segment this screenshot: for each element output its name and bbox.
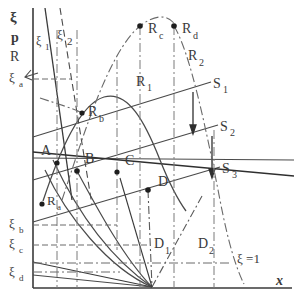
curve-label-R-2: R 2 (188, 48, 204, 68)
s-line-family (33, 82, 294, 222)
y-tick-xi-c-base: ξ (9, 236, 15, 251)
point-label-R-a-sub: a (57, 202, 61, 212)
curve-label-xi-2: ξ 2 (57, 27, 73, 47)
point-label-B: B (85, 151, 94, 166)
curve-left-fall (53, 160, 152, 287)
curve-label-S-1: S 1 (213, 76, 228, 95)
figure-container: ξ p R x ξ a ξ b ξ c ξ d ξ 1 ξ 2 (0, 0, 294, 303)
curve-label-xi-1: ξ 1 (36, 34, 50, 52)
curve-label-S-2: S 2 (220, 119, 235, 138)
marker-C (114, 169, 119, 174)
x-axis-label: x (275, 273, 283, 288)
s-arrow-group (190, 92, 215, 178)
y-tick-xi-a-base: ξ (9, 70, 15, 85)
curve-label-D-1: D 1 (154, 236, 170, 256)
marker-Rc (137, 23, 143, 29)
y-tick-xi-b: ξ b (9, 216, 24, 235)
curve-label-S-2-sub: 2 (230, 127, 235, 138)
curve-label-D-1-sub: 1 (165, 245, 170, 256)
d1-ray (148, 190, 152, 287)
y-tick-xi-d: ξ d (9, 264, 24, 283)
point-label-R-b-sub: b (99, 113, 104, 124)
r2-dashdot-curves (40, 17, 244, 284)
marker-D (145, 187, 151, 193)
y-tick-xi-c: ξ c (9, 236, 23, 255)
curve-mid-fall (77, 171, 152, 287)
point-label-D: D (158, 174, 168, 189)
curve-label-S-2-base: S (220, 119, 228, 134)
marker-Rd (171, 23, 177, 29)
marker-Rb (79, 110, 84, 115)
point-label-R-d-sub: d (193, 30, 198, 41)
curve-label-R-1-sub: 1 (147, 82, 152, 93)
curve-label-S-3: S 3 (222, 161, 237, 180)
point-label-R-b: R b (88, 104, 104, 124)
point-label-A: A (41, 143, 52, 158)
curve-label-S-3-sub: 3 (232, 169, 237, 180)
y-axis-label-R: R (10, 49, 20, 64)
point-label-R-d-base: R (182, 21, 192, 36)
y-axis-label-p: p (11, 30, 19, 45)
y-tick-label-group: ξ a ξ b ξ c ξ d (9, 70, 24, 283)
curve-label-S-1-base: S (213, 76, 221, 91)
curve-label-R-1: R 1 (136, 74, 152, 93)
curve-label-D-2: D 2 (198, 236, 214, 256)
curve-outer-fall (45, 170, 152, 287)
y-tick-xi-d-base: ξ (9, 264, 15, 279)
curve-label-xi-2-sub: 2 (67, 35, 73, 47)
point-label-R-b-base: R (88, 104, 98, 119)
curve-label-D-2-sub: 2 (209, 245, 214, 256)
marker-B (74, 168, 80, 174)
y-tick-xi-a: ξ a (9, 70, 23, 89)
marker-A (54, 160, 59, 165)
point-label-R-a-base: R (47, 193, 56, 208)
y-axis-label-group: ξ p R (10, 9, 20, 64)
abcd-upper-line (33, 152, 294, 176)
curve-label-xi-1-sub: 1 (45, 42, 50, 52)
curve-label-D-1-base: D (154, 236, 164, 251)
curve-label-S-3-base: S (222, 161, 230, 176)
curve-label-xi-1-base: ξ (36, 34, 42, 48)
point-label-R-d: R d (182, 21, 198, 41)
curve-label-R-2-sub: 2 (199, 57, 204, 68)
curve-label-D-2-base: D (198, 236, 208, 251)
y-tick-xi-d-sub: d (19, 273, 24, 283)
point-label-C: C (125, 153, 134, 168)
y-tick-xi-c-sub: c (19, 245, 23, 255)
y-tick-xi-b-base: ξ (9, 216, 15, 231)
diagram-canvas: ξ p R x ξ a ξ b ξ c ξ d ξ 1 ξ 2 (0, 0, 294, 303)
curve-label-xi-2-base: ξ (57, 27, 63, 42)
marker-Ra (39, 201, 44, 206)
annotation-xi-equals-one: ξ =1 (237, 251, 260, 266)
point-label-R-c: R c (148, 21, 164, 41)
abcd-chord-group (33, 152, 294, 176)
point-label-R-c-base: R (148, 21, 158, 36)
y-axis-label-xi: ξ (10, 9, 17, 25)
s0-line (33, 158, 294, 160)
curve-label-R-2-base: R (188, 48, 198, 63)
y-tick-xi-a-sub: a (19, 79, 23, 89)
y-tick-xi-b-sub: b (19, 225, 24, 235)
point-label-R-c-sub: c (159, 30, 164, 41)
curve-label-R-1-base: R (136, 74, 146, 89)
rb-dashdot (40, 98, 82, 113)
curve-label-S-1-sub: 1 (223, 84, 228, 95)
